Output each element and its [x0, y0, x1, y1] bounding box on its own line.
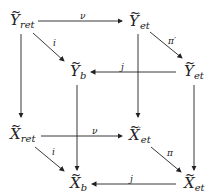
label-i-top: i — [53, 39, 56, 48]
arrow-i-top — [33, 33, 64, 61]
node-X-et: ~Xet — [184, 176, 205, 193]
node-Y-b: ~Yb — [70, 64, 86, 81]
arrow-pi — [151, 147, 181, 172]
node-X-b: ~Xb — [70, 176, 87, 193]
label-pi: π — [167, 149, 173, 158]
node-Y-et: ~Yet — [184, 64, 204, 81]
node-X-ret: ~Xret — [10, 127, 35, 144]
label-nu-top: ν — [80, 12, 85, 21]
node-X-et-prime: ~X′et — [129, 127, 151, 145]
node-Y-et-prime: ~Y′et — [129, 13, 150, 31]
label-j-bottom: j — [130, 175, 133, 184]
label-pi-prime: π′ — [168, 37, 176, 46]
arrow-pi-prime — [150, 32, 182, 58]
label-j-top: j — [121, 63, 124, 72]
node-Y-ret: ~Yret — [10, 13, 35, 30]
label-nu-bottom: ν — [92, 127, 97, 136]
label-i-bottom: i — [52, 148, 55, 157]
arrow-i-bottom — [35, 147, 64, 171]
